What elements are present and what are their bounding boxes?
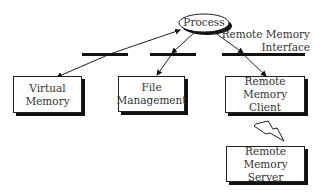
file-management-line1: File bbox=[141, 81, 161, 94]
arrow-bar2-file-management bbox=[157, 54, 172, 75]
virtual-memory-line2: Memory bbox=[25, 95, 69, 108]
remote-memory-server-box: Remote Memory Server bbox=[226, 146, 305, 182]
arrow-bar1-virtual-memory bbox=[57, 54, 110, 77]
rm-client-line2: Client bbox=[249, 101, 281, 114]
lightning-bolt-icon bbox=[254, 121, 284, 141]
interface-bar-virtual-memory bbox=[82, 53, 128, 56]
arrow-process-bar2 bbox=[172, 32, 195, 53]
rm-server-line1: Remote Memory bbox=[227, 145, 304, 171]
virtual-memory-box: Virtual Memory bbox=[13, 76, 82, 113]
rm-server-line2: Server bbox=[248, 171, 284, 184]
virtual-memory-line1: Virtual bbox=[29, 82, 65, 95]
interface-bar-file-management bbox=[150, 53, 196, 56]
remote-memory-interface-label: Remote Memory Interface bbox=[220, 28, 310, 54]
arrow-bar1-process bbox=[110, 30, 180, 54]
interface-label-line1: Remote Memory bbox=[220, 28, 310, 41]
arrow-bar3-rm-client bbox=[244, 55, 266, 76]
file-management-box: File Management bbox=[118, 76, 185, 112]
file-management-line2: Management bbox=[116, 94, 186, 107]
interface-label-line2: Interface bbox=[220, 41, 310, 54]
rm-client-line1: Remote Memory bbox=[226, 75, 304, 101]
remote-memory-client-box: Remote Memory Client bbox=[225, 76, 305, 113]
